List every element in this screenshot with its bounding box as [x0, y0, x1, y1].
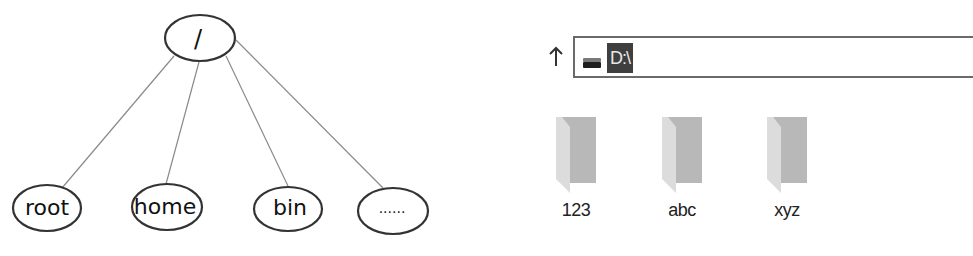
node-more-label: ......: [379, 201, 406, 215]
tree-lines: [0, 0, 540, 256]
folder-label-abc[interactable]: abc: [668, 200, 696, 221]
edge-root: [62, 56, 174, 188]
address-path[interactable]: D:\: [607, 43, 633, 73]
drive-icon: [583, 58, 601, 68]
node-home-label: home: [134, 196, 196, 218]
node-root-dir-label: root: [25, 197, 69, 219]
node-bin-label: bin: [273, 197, 307, 219]
arrow-up-icon[interactable]: [548, 45, 564, 69]
folder-icon[interactable]: [662, 115, 706, 193]
edge-more: [236, 40, 383, 188]
node-root-label: /: [194, 27, 202, 51]
folder-icon[interactable]: [556, 115, 600, 193]
edge-bin: [226, 56, 288, 186]
folder-label-xyz[interactable]: xyz: [774, 200, 800, 221]
folder-icon[interactable]: [767, 115, 811, 193]
folder-label-123[interactable]: 123: [562, 200, 591, 221]
edge-home: [166, 62, 199, 184]
address-bar[interactable]: D:\: [573, 36, 973, 78]
windows-explorer: D:\ 123 abc xyz: [540, 0, 964, 256]
